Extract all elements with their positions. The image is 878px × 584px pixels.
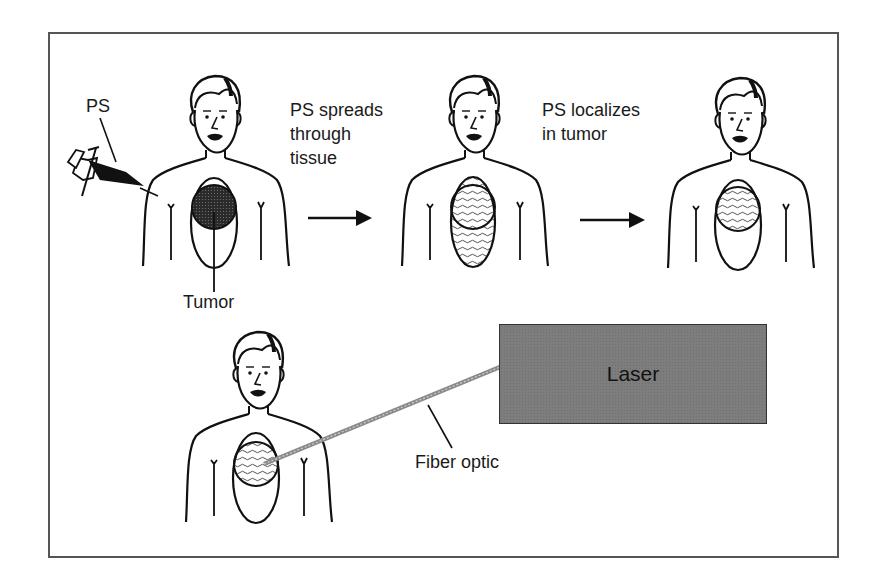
arrow-right-icon <box>308 210 372 226</box>
arrow-right-icon <box>580 212 645 228</box>
figure-localized <box>668 78 814 270</box>
step1-caption: PS spreads through tissue <box>290 98 383 170</box>
laser-label: Laser <box>607 362 660 386</box>
tumor-label: Tumor <box>183 290 234 314</box>
diagram-artwork <box>0 0 878 584</box>
ps-label: PS <box>86 94 110 118</box>
fiber-optic-label: Fiber optic <box>415 450 499 474</box>
fiber-leader-line <box>428 405 452 448</box>
figure-spread <box>402 76 548 267</box>
figure-treatment <box>186 332 332 523</box>
step2-caption: PS localizes in tumor <box>542 98 640 146</box>
laser-box: Laser <box>499 324 767 424</box>
